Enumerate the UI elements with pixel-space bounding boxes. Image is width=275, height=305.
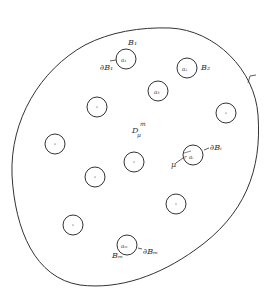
inclusion-i: r aᵢ ∂Bᵢ μ	[171, 143, 222, 169]
center-label-a3: a₃	[154, 89, 159, 95]
inclusion-m: aₘ Bₘ ∂Bₘ	[111, 235, 158, 260]
inclusion-7	[124, 152, 144, 172]
region-subscript: μ	[137, 131, 141, 139]
radius-arrow	[184, 151, 191, 153]
ball-label-bm: Bₘ	[111, 251, 123, 260]
arrow-boundary-bm	[138, 248, 142, 249]
domain-diagram: D m μ a₁ B₁ ∂B₁ a₂ B₂ a₃ r aᵢ ∂Bᵢ μ	[0, 0, 275, 305]
inclusion-10	[63, 215, 83, 235]
boundary-label-dbm: ∂Bₘ	[143, 247, 158, 256]
inclusion-1: a₁ B₁ ∂B₁	[100, 38, 137, 72]
ball-label-b1: B₁	[127, 38, 137, 47]
inclusion-2: a₂ B₂	[177, 58, 210, 78]
inclusion-6	[45, 134, 65, 154]
center-label-am: aₘ	[121, 243, 128, 249]
inclusion-9	[166, 194, 186, 214]
arrow-mu	[176, 158, 183, 163]
inclusion-8	[85, 167, 105, 187]
arrow-boundary-bi	[204, 148, 209, 150]
outer-boundary-gamma	[12, 28, 259, 286]
radius-label: r	[184, 154, 187, 160]
inclusion-4	[87, 97, 107, 117]
region-superscript: m	[140, 120, 146, 127]
boundary-label-dbi: ∂Bᵢ	[210, 143, 222, 152]
boundary-label-db1: ∂B₁	[100, 63, 113, 72]
center-label-ai: aᵢ	[189, 154, 193, 160]
param-label-mu: μ	[171, 160, 176, 169]
center-label-a2: a₂	[182, 66, 187, 72]
center-label-a1: a₁	[121, 57, 126, 63]
arrow-boundary-b1	[110, 60, 116, 61]
inclusion-5	[216, 103, 236, 123]
ball-label-b2: B₂	[200, 63, 210, 72]
inclusion-3: a₃	[148, 81, 168, 101]
